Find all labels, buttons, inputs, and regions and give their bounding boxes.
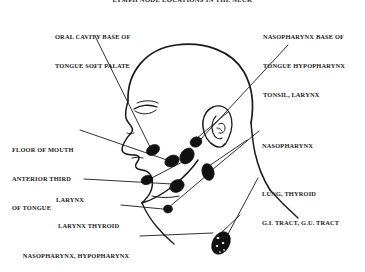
- ear-concha-detail: [217, 128, 222, 131]
- leader-larynx-thyroid: [121, 205, 163, 209]
- leader-nasopharynx: [212, 131, 259, 170]
- lymph-node-diagram-page: LYMPH NODE LOCATIONS IN THE NECK: [0, 0, 365, 272]
- label-line: TONGUE SOFT PALATE: [55, 61, 130, 71]
- leader-internal-d: [209, 140, 247, 166]
- label-line: FLOOR OF MOUTH: [12, 145, 74, 155]
- lower-jugular-node: [164, 205, 173, 213]
- leader-larynx: [84, 179, 172, 184]
- upper-eyelid: [134, 105, 157, 109]
- leader-lung-thyroid: [228, 178, 258, 234]
- leader-internal-c: [196, 112, 228, 139]
- ear-antihelix: [212, 116, 222, 139]
- eye-group: [134, 101, 158, 114]
- label-nasopharynx-hypopharynx-thyroid: NASOPHARYNX, HYPOPHARYNX THYROID: [13, 232, 139, 272]
- label-line: TONSIL, LARYNX: [263, 90, 345, 100]
- label-line: LARYNX THYROID: [58, 221, 119, 231]
- label-oral-cavity-base-of-tongue-soft-palate: ORAL CAVITY BASE OF TONGUE SOFT PALATE: [55, 13, 130, 90]
- submental-node: [144, 142, 161, 157]
- lower-eyelid: [135, 110, 156, 114]
- label-line: NASOPHARYNX, HYPOPHARYNX: [13, 251, 139, 261]
- anterior-cervical-node: [168, 177, 187, 195]
- neck-fold-line: [152, 196, 179, 198]
- label-line: G.I. TRACT, G.U. TRACT: [262, 218, 339, 228]
- cranium-outline: [128, 44, 253, 123]
- label-nasopharynx-base-of-tongue-hypopharynx-tonsil-larynx: NASOPHARYNX BASE OF TONGUE HYPOPHARYNX T…: [263, 13, 345, 119]
- leader-naso-hypo-thyroid: [140, 233, 213, 236]
- label-line: NASOPHARYNX BASE OF: [263, 32, 345, 42]
- ear-helix: [203, 107, 225, 147]
- eyebrow: [137, 101, 158, 103]
- label-line: TONGUE HYPOPHARYNX: [263, 61, 345, 71]
- preauricular-node: [189, 135, 204, 149]
- label-lung-thyroid-gi-tract-gu-tract: LUNG, THYROID G.I. TRACT, G.U. TRACT: [262, 170, 339, 247]
- label-nasopharynx: NASOPHARYNX: [262, 122, 313, 170]
- lip-line: [132, 157, 143, 158]
- leader-internal-e: [221, 215, 240, 233]
- label-line: ORAL CAVITY BASE OF: [55, 32, 130, 42]
- submandibular-node: [163, 153, 181, 169]
- label-line: LUNG, THYROID: [262, 189, 339, 199]
- ear-outer-rim: [213, 106, 232, 144]
- label-line: NASOPHARYNX: [262, 141, 313, 151]
